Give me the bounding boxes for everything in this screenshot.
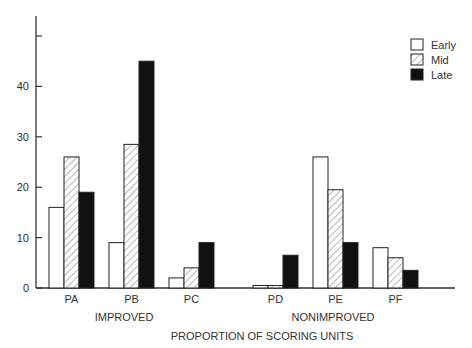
x-tick-label: PA	[65, 293, 80, 305]
x-tick-label: PB	[124, 293, 139, 305]
x-tick-label: PD	[268, 293, 283, 305]
bar-pe-early	[313, 157, 328, 288]
bar-pc-mid	[184, 268, 199, 288]
bar-pd-late	[283, 255, 298, 288]
bar-pa-early	[49, 207, 64, 288]
bar-pb-late	[139, 61, 154, 288]
legend-label-mid: Mid	[431, 54, 449, 66]
y-tick-label: 30	[17, 131, 29, 143]
x-tick-label: PF	[388, 293, 402, 305]
legend-label-late: Late	[431, 69, 452, 81]
x-axis-title: PROPORTION OF SCORING UNITS	[171, 330, 354, 342]
bar-chart: 010203040 PAPBPCPDPEPFIMPROVEDNONIMPROVE…	[0, 0, 472, 348]
bar-pe-late	[343, 243, 358, 288]
y-tick-label: 0	[23, 282, 29, 294]
legend-label-early: Early	[431, 39, 457, 51]
bar-pe-mid	[328, 190, 343, 288]
bar-pd-early	[253, 285, 268, 288]
bar-pc-early	[169, 278, 184, 288]
x-tick-label: PE	[328, 293, 343, 305]
group-label-improved: IMPROVED	[95, 311, 154, 323]
bar-pf-early	[373, 248, 388, 288]
bar-pb-mid	[124, 144, 139, 288]
x-axis-labels: PAPBPCPDPEPFIMPROVEDNONIMPROVEDPROPORTIO…	[65, 293, 403, 342]
y-tick-label: 40	[17, 80, 29, 92]
bar-pa-mid	[64, 157, 79, 288]
bar-pc-late	[199, 243, 214, 288]
y-tick-label: 10	[17, 232, 29, 244]
legend-swatch-early	[411, 39, 423, 50]
legend: EarlyMidLate	[411, 39, 457, 81]
bar-pb-early	[109, 243, 124, 288]
bar-pf-mid	[388, 258, 403, 288]
legend-swatch-late	[411, 69, 423, 80]
legend-swatch-mid	[411, 54, 423, 65]
bar-pf-late	[403, 270, 418, 288]
y-tick-label: 20	[17, 181, 29, 193]
bar-pa-late	[79, 192, 94, 288]
x-tick-label: PC	[184, 293, 199, 305]
bar-pd-mid	[268, 285, 283, 288]
group-label-nonimproved: NONIMPROVED	[291, 311, 374, 323]
bars	[49, 61, 418, 288]
